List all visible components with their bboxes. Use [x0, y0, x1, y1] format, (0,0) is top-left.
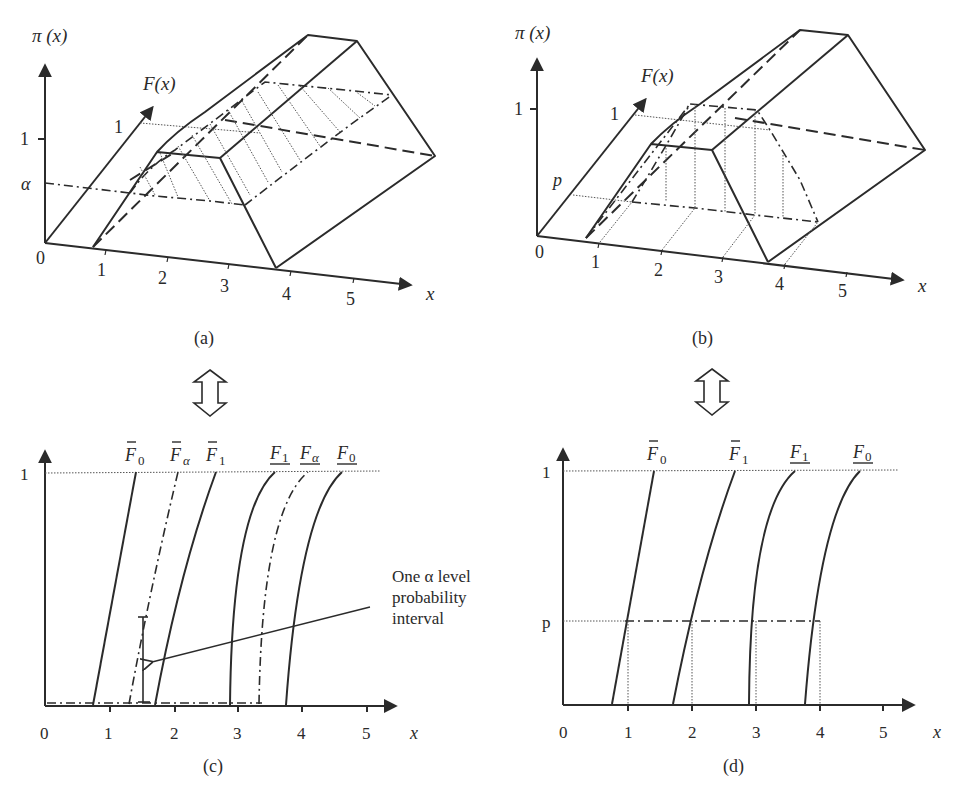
p-drop-lines	[628, 621, 820, 705]
curve-lower-0	[805, 471, 860, 704]
panel-b: π (x) F(x) 1 1 p 0 1 2 3 4 5 x	[514, 22, 927, 301]
svg-text:F: F	[789, 442, 802, 462]
f-axis-tick-1: 1	[610, 104, 619, 124]
svg-text:α: α	[312, 450, 320, 465]
inner-dash	[130, 152, 175, 180]
curve-lower-1	[230, 472, 275, 705]
pi-tick-label-alpha: α	[21, 174, 31, 194]
panel-d: 1 p 0 1 2 3 4 5 x (d) F	[542, 441, 941, 777]
x-tick-1: 1	[97, 260, 106, 280]
label-upper-0: F 0	[646, 441, 667, 467]
x-tick-4: 4	[282, 284, 291, 304]
label-lower-alpha: F α	[299, 443, 320, 465]
f1-dashed	[225, 120, 435, 156]
svg-text:F: F	[205, 445, 218, 465]
pi-axis-label: π (x)	[515, 22, 550, 44]
label-upper-0: F 0	[124, 442, 145, 468]
f-axis-label: F(x)	[142, 73, 176, 95]
y-tick-1: 1	[20, 465, 29, 484]
x-axis-label: x	[917, 275, 927, 296]
svg-text:1: 1	[282, 450, 289, 465]
caption-b: (b)	[692, 328, 713, 349]
alpha-lower-curve	[245, 95, 392, 205]
curve-upper-1	[673, 471, 735, 704]
svg-text:0: 0	[138, 453, 145, 468]
x-tick-2: 2	[170, 724, 179, 743]
annotation-text: One α level probability interval	[392, 567, 471, 628]
svg-text:interval: interval	[392, 609, 444, 628]
alpha-cut-line	[45, 183, 245, 205]
x-tick-1: 1	[104, 724, 113, 743]
x-tick-2: 2	[654, 260, 663, 280]
svg-text:F: F	[299, 443, 312, 463]
svg-text:1: 1	[802, 449, 809, 464]
f1-dashed	[735, 118, 925, 150]
probability-interval-marker	[138, 617, 150, 703]
x-axis-label: x	[932, 722, 941, 742]
inner-dashdot	[586, 104, 690, 238]
panel-a: π (x) F(x) 1 1 α 0 1 2 3 4 5 x	[20, 25, 435, 309]
x-tick-3: 3	[714, 267, 723, 287]
panel-c: 1 0 1 2 3 4 5 x (c) F 0	[20, 442, 471, 777]
x-tick-5: 5	[362, 724, 371, 743]
x-tick-2: 2	[158, 268, 167, 288]
label-lower-1: F 1	[269, 443, 290, 465]
origin-label: 0	[36, 248, 45, 268]
x-tick-3: 3	[233, 724, 242, 743]
alpha-hatching	[140, 85, 375, 204]
x-tick-4: 4	[816, 723, 825, 742]
svg-text:F: F	[169, 445, 182, 465]
x-axis-label: x	[425, 283, 435, 304]
origin-label: 0	[535, 242, 544, 262]
f-axis-tick-1: 1	[114, 117, 123, 137]
y-tick-1: 1	[542, 463, 551, 482]
x-tick-4: 4	[297, 724, 306, 743]
curve-upper-0	[612, 471, 654, 704]
caption-d: (d)	[723, 756, 744, 777]
curve-lower-alpha	[259, 472, 308, 704]
p-label: p	[551, 170, 562, 190]
x-tick-5: 5	[838, 281, 847, 301]
label-lower-1: F 1	[789, 442, 810, 464]
svg-text:F: F	[728, 444, 741, 464]
x-tick-2: 2	[688, 723, 697, 742]
caption-a: (a)	[194, 328, 214, 349]
svg-text:0: 0	[865, 449, 872, 464]
curve-upper-1	[155, 472, 216, 705]
x-tick-0: 0	[559, 723, 568, 742]
svg-text:1: 1	[742, 452, 749, 467]
label-lower-0: F 0	[852, 442, 873, 464]
curve-upper-alpha	[129, 472, 178, 704]
label-upper-1: F 1	[728, 441, 749, 467]
curve-lower-0	[286, 472, 342, 705]
level-1-line	[563, 470, 898, 471]
x-tick-1: 1	[624, 723, 633, 742]
x-tick-5: 5	[879, 723, 888, 742]
pi-axis-label: π (x)	[32, 25, 67, 47]
curve-upper-0	[93, 472, 136, 705]
pbox-prism	[93, 35, 435, 268]
y-tick-p: p	[542, 613, 551, 632]
svg-text:0: 0	[660, 452, 667, 467]
figure-canvas: π (x) F(x) 1 1 α 0 1 2 3 4 5 x	[0, 0, 967, 791]
x-tick-1: 1	[591, 252, 600, 272]
svg-text:1: 1	[219, 453, 226, 468]
pi-tick-label-1: 1	[514, 99, 523, 119]
svg-text:0: 0	[349, 450, 356, 465]
x-tick-0: 0	[40, 724, 49, 743]
f1-level-line	[140, 123, 260, 133]
x-tick-3: 3	[752, 723, 761, 742]
x-axis-label: x	[409, 723, 418, 743]
annotation-pointer-arrow	[152, 607, 370, 662]
double-arrow-a-c	[194, 370, 226, 416]
x-tick-5: 5	[346, 289, 355, 309]
svg-text:F: F	[124, 445, 137, 465]
x-tick-3: 3	[220, 276, 229, 296]
level-1-line	[45, 471, 380, 473]
p-level-line	[573, 195, 632, 202]
svg-text:α: α	[183, 453, 191, 468]
f-axis-label: F(x)	[640, 65, 674, 87]
double-arrow-b-d	[696, 369, 728, 415]
f-axis	[537, 100, 645, 236]
x-tick-4: 4	[775, 274, 784, 294]
